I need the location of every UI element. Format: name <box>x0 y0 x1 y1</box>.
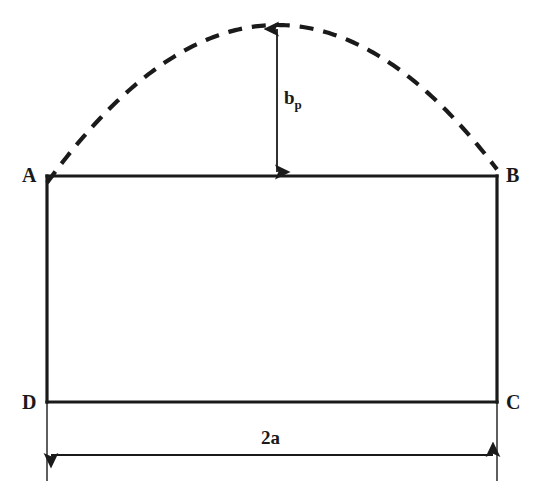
vertex-label-d: D <box>22 392 36 412</box>
base-width-dimension-label: 2a <box>261 428 280 447</box>
vertex-label-c: C <box>506 392 520 412</box>
vertex-label-b: B <box>506 165 519 185</box>
diagram-graphics <box>0 0 535 501</box>
diagram-canvas: A B C D bp 2a <box>0 0 535 501</box>
rise-subscript: p <box>295 97 302 112</box>
dashed-parabolic-arc <box>47 25 497 183</box>
rise-symbol: b <box>284 87 295 108</box>
rise-dimension-label: bp <box>284 88 302 114</box>
vertex-label-a: A <box>22 165 36 185</box>
